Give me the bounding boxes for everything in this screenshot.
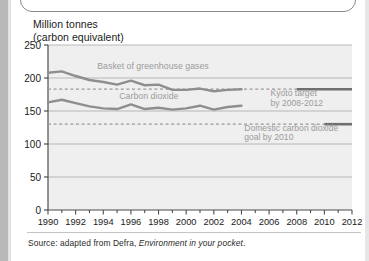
line-chart: 0501001502002501990199219941996199820002… xyxy=(11,12,363,232)
x-axis-tick-label: 2012 xyxy=(342,217,363,227)
x-axis-tick-label: 2002 xyxy=(203,217,224,227)
source-title: Environment in your pocket xyxy=(139,238,243,248)
x-axis-tick-label: 2000 xyxy=(176,217,197,227)
page-edge-right xyxy=(365,0,369,261)
x-axis-tick-label: 2004 xyxy=(231,217,252,227)
y-axis-tick-label: 200 xyxy=(24,73,41,84)
target-annotation-label: by 2008-2012 xyxy=(270,98,323,108)
x-axis-tick-label: 1996 xyxy=(121,217,142,227)
y-axis-tick-label: 150 xyxy=(24,106,41,117)
x-axis-tick-label: 1990 xyxy=(38,217,59,227)
source-suffix: . xyxy=(243,238,245,248)
footer-divider xyxy=(27,232,361,233)
source-note: Source: adapted from Defra, Environment … xyxy=(28,238,245,248)
rounded-panel-fragment xyxy=(20,0,356,12)
series-label: Carbon dioxide xyxy=(119,91,178,101)
x-axis-tick-label: 2006 xyxy=(259,217,280,227)
y-axis-tick-label: 0 xyxy=(35,205,41,216)
target-annotation-label: Kyoto target xyxy=(270,88,317,98)
y-axis-tick-label: 250 xyxy=(24,40,41,51)
y-axis-tick-label: 50 xyxy=(30,172,42,183)
page-edge-shadow xyxy=(0,0,8,261)
x-axis-tick-label: 1998 xyxy=(148,217,169,227)
y-axis-tick-label: 100 xyxy=(24,139,41,150)
chart-figure: Million tonnes (carbon equivalent) 05010… xyxy=(11,12,363,252)
series-label: Basket of greenhouse gases xyxy=(97,61,209,71)
target-annotation-label: goal by 2010 xyxy=(244,132,293,142)
x-axis-tick-label: 2008 xyxy=(286,217,307,227)
x-axis-tick-label: 1994 xyxy=(93,217,114,227)
x-axis-tick-label: 1992 xyxy=(65,217,86,227)
source-prefix: Source: adapted from Defra, xyxy=(28,238,139,248)
x-axis-tick-label: 2010 xyxy=(314,217,335,227)
figure-root: Million tonnes (carbon equivalent) 05010… xyxy=(0,0,369,261)
target-annotation-label: Domestic carbon dioxide xyxy=(244,123,338,133)
